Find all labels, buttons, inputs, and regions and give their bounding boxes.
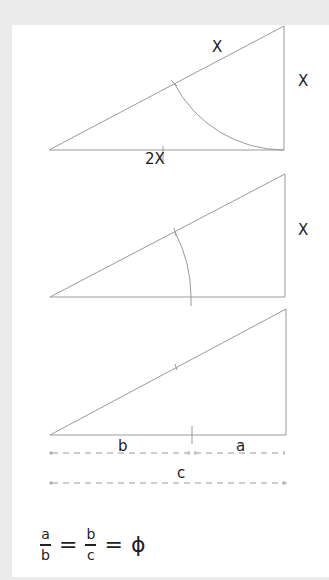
phi-symbol: ϕ (131, 534, 146, 556)
hypotenuse-label: X (212, 38, 222, 56)
segment-a-label: a (236, 437, 245, 455)
numerator: a (41, 527, 50, 542)
dimension-lines (52, 453, 284, 483)
triangle-3 (50, 309, 286, 444)
total-c-label: c (177, 464, 185, 482)
segment-b-label: b (118, 437, 128, 455)
dimension-markers (49, 451, 287, 485)
fraction-bar (40, 544, 51, 546)
golden-ratio-diagram: X X 2X X b a c (0, 0, 329, 580)
fraction-bar (85, 544, 96, 546)
side-label: X (298, 72, 308, 90)
base-label: 2X (145, 150, 165, 168)
equals-sign: = (104, 534, 122, 556)
golden-ratio-formula: a b = b c = ϕ (40, 527, 145, 563)
denominator: c (87, 548, 95, 563)
side-label-2: X (298, 221, 308, 239)
numerator: b (86, 527, 95, 542)
triangle-1 (49, 26, 284, 162)
triangle-2 (50, 174, 285, 306)
fraction-b-over-c: b c (85, 527, 96, 563)
denominator: b (41, 548, 50, 563)
equals-sign: = (59, 534, 77, 556)
arc-2 (175, 232, 191, 297)
arc-1 (174, 83, 284, 150)
fraction-a-over-b: a b (40, 527, 51, 563)
